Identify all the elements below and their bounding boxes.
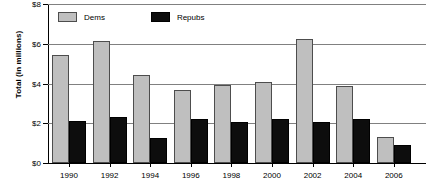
y-tick-label: $4 bbox=[32, 79, 41, 88]
bar-repubs-2000 bbox=[272, 119, 289, 163]
gridline bbox=[48, 4, 426, 5]
bar-repubs-2006 bbox=[394, 145, 411, 163]
bar-repubs-1998 bbox=[231, 122, 248, 163]
bar-dems-2002 bbox=[296, 39, 313, 163]
y-tick-label: $6 bbox=[32, 39, 41, 48]
y-tick-mark bbox=[43, 84, 48, 85]
x-tick-mark bbox=[272, 163, 273, 167]
plot-area: $0$2$4$6$8 19901992199419961998200020022… bbox=[48, 4, 426, 163]
x-tick-mark bbox=[313, 163, 314, 167]
y-tick-label: $0 bbox=[32, 159, 41, 168]
x-tick-mark bbox=[191, 163, 192, 167]
legend-swatch-repubs-icon bbox=[151, 12, 170, 22]
bar-dems-2004 bbox=[336, 86, 353, 163]
x-tick-mark bbox=[150, 163, 151, 167]
x-tick-mark bbox=[231, 163, 232, 167]
x-tick-mark bbox=[69, 163, 70, 167]
bar-dems-1990 bbox=[52, 55, 69, 163]
legend-item-repubs: Repubs bbox=[151, 12, 205, 22]
legend: Dems Repubs bbox=[58, 12, 204, 22]
legend-label-repubs: Repubs bbox=[177, 13, 205, 22]
bar-dems-1998 bbox=[214, 85, 231, 164]
x-tick-mark bbox=[394, 163, 395, 167]
bar-chart: Total (in millions) $0$2$4$6$8 199019921… bbox=[0, 0, 437, 190]
x-tick-label-1990: 1990 bbox=[60, 171, 78, 180]
x-tick-label-1996: 1996 bbox=[182, 171, 200, 180]
x-tick-label-1994: 1994 bbox=[141, 171, 159, 180]
bar-repubs-1994 bbox=[150, 138, 167, 163]
x-tick-label-1992: 1992 bbox=[101, 171, 119, 180]
bar-dems-1992 bbox=[93, 41, 110, 163]
bar-repubs-2002 bbox=[313, 122, 330, 163]
x-tick-label-2004: 2004 bbox=[344, 171, 362, 180]
bar-dems-1996 bbox=[174, 90, 191, 163]
legend-label-dems: Dems bbox=[84, 13, 105, 22]
y-tick-mark bbox=[43, 4, 48, 5]
y-tick-label: $8 bbox=[32, 0, 41, 9]
x-tick-mark bbox=[353, 163, 354, 167]
bar-repubs-1990 bbox=[69, 121, 86, 163]
x-axis-line bbox=[48, 163, 426, 164]
bar-repubs-1996 bbox=[191, 119, 208, 163]
legend-item-dems: Dems bbox=[58, 12, 105, 22]
bar-dems-1994 bbox=[133, 75, 150, 163]
x-tick-label-1998: 1998 bbox=[222, 171, 240, 180]
legend-swatch-dems-icon bbox=[58, 12, 77, 22]
bar-repubs-2004 bbox=[353, 119, 370, 163]
x-tick-label-2000: 2000 bbox=[263, 171, 281, 180]
x-tick-mark bbox=[110, 163, 111, 167]
x-tick-label-2006: 2006 bbox=[385, 171, 403, 180]
y-tick-label: $2 bbox=[32, 119, 41, 128]
bar-dems-2006 bbox=[377, 137, 394, 163]
x-tick-label-2002: 2002 bbox=[304, 171, 322, 180]
y-tick-mark bbox=[43, 123, 48, 124]
bar-dems-2000 bbox=[255, 82, 272, 163]
y-tick-mark bbox=[43, 44, 48, 45]
y-axis-title: Total (in millions) bbox=[14, 10, 23, 120]
bar-repubs-1992 bbox=[110, 117, 127, 163]
y-tick-mark bbox=[43, 163, 48, 164]
